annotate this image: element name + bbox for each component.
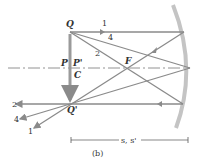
caption: (b)	[92, 149, 103, 158]
ray-1-reflected	[34, 32, 184, 128]
distance-label: s, s'	[121, 136, 137, 145]
ray-label-2-bottom: 2	[12, 100, 17, 109]
ray-label-4-bottom: 4	[14, 115, 19, 124]
ray-4-reflected	[20, 68, 190, 119]
label-Q-prime: Q'	[67, 105, 78, 115]
concave-mirror-ray-diagram: Q Q' P P' C F 1 2 4 2 4 1 s, s' (b)	[0, 0, 199, 162]
ray-label-4: 4	[108, 33, 113, 42]
ray-label-2: 2	[95, 49, 100, 58]
ray-2-reflect-arrow	[157, 101, 162, 107]
label-C: C	[74, 70, 82, 80]
ray-1-direction-arrow	[100, 29, 105, 35]
label-Q: Q	[66, 19, 74, 29]
ray-label-1-bottom: 1	[28, 127, 33, 136]
label-P-prime: P'	[72, 58, 83, 68]
ray-label-1: 1	[102, 19, 107, 28]
label-P: P	[60, 58, 68, 68]
label-F: F	[124, 56, 132, 66]
